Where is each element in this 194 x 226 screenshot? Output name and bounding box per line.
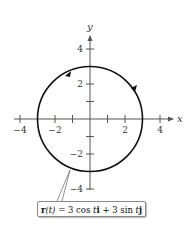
y-tick-label: −4: [70, 184, 84, 194]
eq-j: j: [139, 205, 142, 215]
eq-part: = 3 cos: [55, 205, 93, 215]
x-tick-label: 2: [122, 125, 128, 135]
direction-arrow-icon: [131, 85, 137, 92]
y-tick-label: −2: [70, 149, 83, 159]
equation-label-box: r(t) = 3 cos ti + 3 sin tj: [37, 201, 146, 217]
y-tick-label: 2: [77, 79, 83, 89]
x-axis-label: x: [177, 113, 183, 124]
y-axis-label: y: [86, 21, 93, 32]
eq-arg: (t): [45, 205, 55, 215]
x-tick-label: 4: [157, 125, 163, 135]
eq-part: + 3 sin: [100, 205, 136, 215]
x-tick-label: −2: [48, 125, 61, 135]
y-tick-label: 4: [77, 44, 83, 54]
diagram-canvas: −4 −2 2 4 4 2 −2 −4 x y: [0, 0, 194, 226]
x-tick-label: −4: [13, 125, 27, 135]
